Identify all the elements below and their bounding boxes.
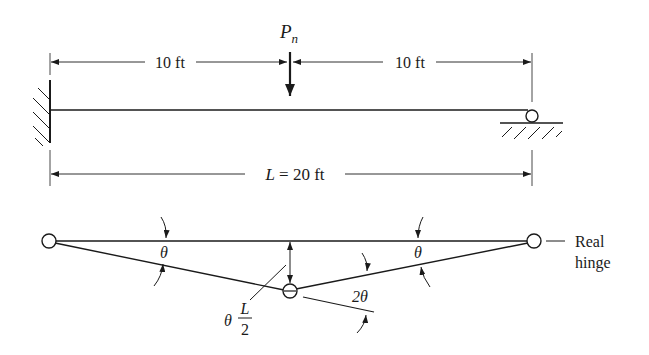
collapse-mechanism-diagram: Pn 10 ft 10 ft L = 20 ft θ (0, 0, 649, 355)
angle-arrow-right-bottom (421, 267, 430, 287)
deflected-member-left (55, 243, 284, 290)
two-theta-label: 2θ (352, 288, 368, 305)
angle-arrow-right-top (418, 217, 423, 238)
svg-text:2: 2 (241, 321, 249, 338)
svg-text:L: L (240, 300, 250, 317)
deflection-label: θ L 2 (224, 300, 252, 338)
roller-support-icon (500, 110, 563, 139)
deflection-leader (250, 265, 286, 300)
dim-right-label: 10 ft (395, 54, 425, 71)
dim-total-label: L = 20 ft (264, 165, 324, 184)
mechanism-diagram (42, 217, 565, 333)
load-label: Pn (279, 21, 298, 46)
svg-text:θ: θ (224, 312, 232, 329)
angle-arrow-left-top (161, 217, 166, 238)
angle-arrow-2theta-bottom (357, 315, 366, 333)
hinge-right-icon (527, 234, 541, 248)
theta-left-label: θ (160, 244, 168, 261)
dim-left-label: 10 ft (155, 54, 185, 71)
deflected-member-right (296, 243, 528, 289)
fixed-support-icon (33, 80, 50, 146)
hinge-left-icon (42, 234, 56, 248)
theta-right-label: θ (414, 244, 422, 261)
real-hinge-label-2: hinge (575, 254, 611, 272)
angle-arrow-left-bottom (154, 264, 163, 286)
angle-arrow-2theta-top (362, 253, 367, 271)
real-hinge-label: Real (575, 233, 605, 250)
